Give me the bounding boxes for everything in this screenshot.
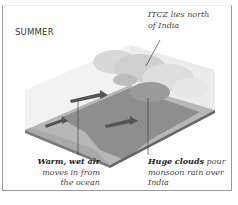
warm-air-line-3: the ocean	[10, 178, 100, 189]
warm-air-bold: Warm, wet air	[37, 156, 100, 166]
itcz-annotation: ITCZ lies north of India	[148, 10, 209, 31]
clouds-rest: pour	[204, 157, 225, 166]
clouds-line-2: monsoon rain over	[148, 168, 233, 179]
clouds-annotation: Huge clouds pour monsoon rain over India	[148, 156, 233, 189]
clouds-line-3: India	[148, 178, 233, 189]
warm-air-line-2: moves in from	[10, 168, 100, 179]
clouds-bold: Huge clouds	[148, 156, 204, 166]
itcz-line-2: of India	[148, 21, 209, 32]
season-label: SUMMER	[15, 27, 54, 37]
itcz-line-1: ITCZ lies north	[148, 10, 209, 21]
warm-air-annotation: Warm, wet air moves in from the ocean	[10, 156, 100, 189]
